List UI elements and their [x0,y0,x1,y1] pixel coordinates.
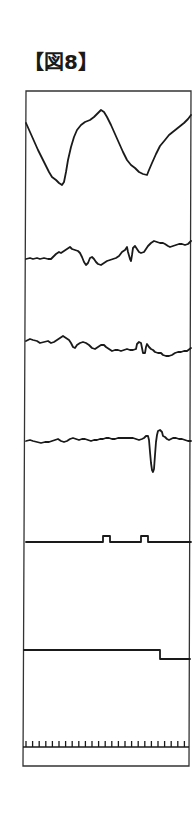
trace-spike-signal [26,430,191,472]
time-marker-axis [23,741,189,747]
trace-large-wave [26,110,191,185]
trace-noisy-signal-2 [26,336,191,356]
figure-frame [23,91,191,766]
waveform-figure [0,0,193,835]
trace-noisy-signal-1 [26,241,191,265]
trace-step-signal [24,650,190,659]
trace-pulse-signal [26,536,191,542]
